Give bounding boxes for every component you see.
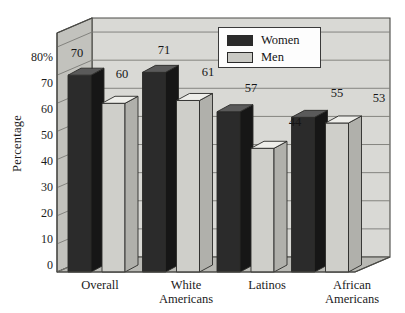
x-label-white-americans: White Americans <box>143 278 229 306</box>
value-label-latinos-men: 44 <box>280 115 310 130</box>
value-label-latinos-women: 57 <box>236 81 266 96</box>
legend-label-women: Women <box>261 34 300 47</box>
x-label-african-line2: Americans <box>308 292 396 306</box>
y-axis-ticks: 80% 70 60 50 40 30 20 10 0 <box>0 0 53 313</box>
legend: Women Men <box>218 27 321 68</box>
value-label-overall-men: 60 <box>107 67 137 82</box>
legend-swatch-men <box>227 52 253 63</box>
x-label-overall-line1: Overall <box>60 278 140 292</box>
x-label-african-line1: African <box>308 278 396 292</box>
x-label-latinos: Latinos <box>228 278 306 292</box>
y-tick-10: 10 <box>7 232 53 247</box>
x-label-white-line2: Americans <box>143 292 229 306</box>
bar-chart-3d <box>0 0 405 313</box>
x-label-latinos-line1: Latinos <box>228 278 306 292</box>
x-label-white-line1: White <box>143 278 229 292</box>
y-tick-50: 50 <box>7 128 53 143</box>
value-label-white-women: 71 <box>149 43 179 58</box>
legend-swatch-women <box>227 35 253 46</box>
value-label-overall-women: 70 <box>62 46 92 61</box>
legend-item-men: Men <box>227 49 320 65</box>
value-label-african-women: 55 <box>322 86 352 101</box>
y-tick-80: 80% <box>7 50 53 65</box>
y-tick-60: 60 <box>7 102 53 117</box>
y-tick-0: 0 <box>7 258 53 273</box>
y-tick-30: 30 <box>7 180 53 195</box>
y-tick-70: 70 <box>7 76 53 91</box>
x-label-african-americans: African Americans <box>308 278 396 306</box>
x-label-overall: Overall <box>60 278 140 292</box>
legend-item-women: Women <box>227 32 320 48</box>
y-tick-20: 20 <box>7 206 53 221</box>
y-tick-40: 40 <box>7 154 53 169</box>
legend-label-men: Men <box>261 51 284 64</box>
value-label-african-men: 53 <box>364 91 394 106</box>
